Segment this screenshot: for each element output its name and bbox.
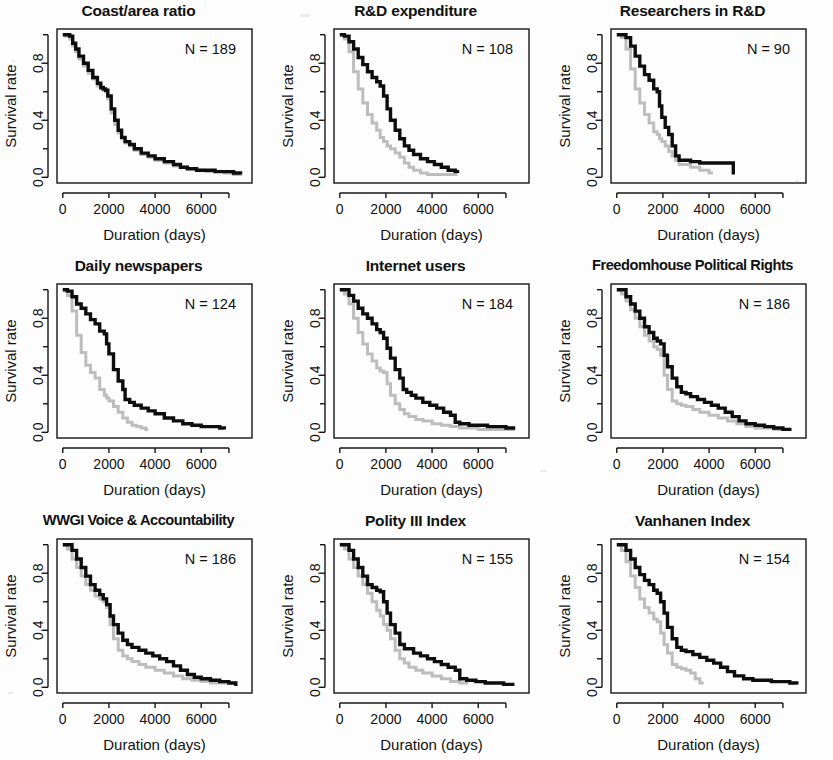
x-tick-label: 0 — [613, 201, 621, 217]
y-axis-label: Survival rate — [556, 574, 573, 657]
y-axis-label: Survival rate — [2, 574, 19, 657]
x-tick-label: 4000 — [693, 201, 724, 217]
x-tick-label: 2000 — [370, 711, 401, 727]
x-tick-label: 2000 — [93, 456, 124, 472]
x-tick-label: 6000 — [463, 456, 494, 472]
survival-panel: Internet users0.00.40.80200040006000Dura… — [277, 255, 554, 508]
x-tick-label: 0 — [336, 711, 344, 727]
y-tick-label: 0.0 — [30, 167, 46, 187]
survival-panel: Daily newspapers0.00.40.80200040006000Du… — [0, 255, 277, 508]
y-axis-label: Survival rate — [279, 64, 296, 147]
plot-area: 0.00.40.80200040006000Duration (days)Sur… — [0, 0, 277, 253]
y-axis-label: Survival rate — [2, 64, 19, 147]
y-tick-label: 0.4 — [30, 110, 46, 130]
survival-panel: Polity III Index0.00.40.80200040006000Du… — [277, 510, 554, 760]
y-tick-label: 0.0 — [307, 677, 323, 697]
x-tick-label: 0 — [59, 711, 67, 727]
plot-area: 0.00.40.80200040006000Duration (days)Sur… — [0, 255, 277, 508]
sample-size-label: N = 124 — [185, 296, 236, 312]
y-tick-label: 0.0 — [307, 167, 323, 187]
x-tick-label: 4000 — [416, 711, 447, 727]
plot-area: 0.00.40.80200040006000Duration (days)Sur… — [277, 510, 554, 760]
x-tick-label: 6000 — [186, 456, 217, 472]
x-tick-label: 0 — [613, 711, 621, 727]
plot-area: 0.00.40.80200040006000Duration (days)Sur… — [554, 510, 831, 760]
y-tick-label: 0.8 — [307, 563, 323, 583]
x-axis-label: Duration (days) — [380, 481, 483, 498]
x-tick-label: 4000 — [693, 456, 724, 472]
survival-panel: R&D expenditure0.00.40.80200040006000Dur… — [277, 0, 554, 253]
y-tick-label: 0.4 — [584, 620, 600, 640]
x-axis-label: Duration (days) — [103, 226, 206, 243]
sample-size-label: N = 186 — [185, 551, 236, 567]
y-tick-label: 0.8 — [30, 53, 46, 73]
y-tick-label: 0.4 — [584, 365, 600, 385]
sample-size-label: N = 189 — [185, 41, 236, 57]
x-tick-label: 2000 — [647, 201, 678, 217]
x-tick-label: 6000 — [186, 711, 217, 727]
sample-size-label: N = 184 — [462, 296, 513, 312]
y-tick-label: 0.4 — [584, 110, 600, 130]
sample-size-label: N = 186 — [739, 296, 790, 312]
survival-panel: Vanhanen Index0.00.40.80200040006000Dura… — [554, 510, 831, 760]
x-tick-label: 2000 — [93, 201, 124, 217]
x-tick-label: 6000 — [740, 456, 771, 472]
y-tick-label: 0.4 — [307, 110, 323, 130]
plot-area: 0.00.40.80200040006000Duration (days)Sur… — [277, 255, 554, 508]
x-axis-label: Duration (days) — [380, 226, 483, 243]
plot-area: 0.00.40.80200040006000Duration (days)Sur… — [554, 0, 831, 253]
x-tick-label: 6000 — [186, 201, 217, 217]
x-axis-label: Duration (days) — [657, 736, 760, 753]
x-tick-label: 2000 — [647, 456, 678, 472]
x-tick-label: 2000 — [93, 711, 124, 727]
y-tick-label: 0.8 — [30, 308, 46, 328]
x-tick-label: 2000 — [370, 201, 401, 217]
y-tick-label: 0.4 — [30, 620, 46, 640]
y-axis-label: Survival rate — [2, 319, 19, 402]
x-tick-label: 4000 — [693, 711, 724, 727]
x-tick-label: 6000 — [740, 711, 771, 727]
survival-curve-gray — [63, 290, 148, 430]
y-tick-label: 0.0 — [584, 422, 600, 442]
x-tick-label: 2000 — [647, 711, 678, 727]
sample-size-label: N = 155 — [462, 551, 513, 567]
x-tick-label: 6000 — [463, 201, 494, 217]
plot-area: 0.00.40.80200040006000Duration (days)Sur… — [0, 510, 277, 760]
y-tick-label: 0.4 — [307, 365, 323, 385]
x-axis-label: Duration (days) — [657, 226, 760, 243]
y-tick-label: 0.4 — [30, 365, 46, 385]
y-tick-label: 0.8 — [584, 308, 600, 328]
x-tick-label: 4000 — [139, 201, 170, 217]
survival-curve-black — [617, 35, 734, 175]
survival-curves-figure: Coast/area ratio0.00.40.80200040006000Du… — [0, 0, 833, 760]
survival-curve-gray — [617, 545, 702, 685]
x-tick-label: 6000 — [463, 711, 494, 727]
x-tick-label: 4000 — [416, 456, 447, 472]
y-tick-label: 0.8 — [30, 563, 46, 583]
x-tick-label: 0 — [336, 456, 344, 472]
survival-panel: Freedomhouse Political Rights0.00.40.802… — [554, 255, 831, 508]
x-tick-label: 4000 — [416, 201, 447, 217]
survival-panel: WWGI Voice & Accountability0.00.40.80200… — [0, 510, 277, 760]
x-tick-label: 0 — [336, 201, 344, 217]
x-axis-label: Duration (days) — [103, 736, 206, 753]
y-tick-label: 0.8 — [307, 53, 323, 73]
y-axis-label: Survival rate — [279, 574, 296, 657]
y-axis-label: Survival rate — [556, 64, 573, 147]
survival-panel: Researchers in R&D0.00.40.80200040006000… — [554, 0, 831, 253]
y-tick-label: 0.8 — [584, 53, 600, 73]
sample-size-label: N = 108 — [462, 41, 513, 57]
y-axis-label: Survival rate — [279, 319, 296, 402]
x-tick-label: 4000 — [139, 456, 170, 472]
y-tick-label: 0.0 — [584, 167, 600, 187]
survival-panel: Coast/area ratio0.00.40.80200040006000Du… — [0, 0, 277, 253]
survival-curve-gray — [617, 35, 712, 175]
y-tick-label: 0.8 — [584, 563, 600, 583]
y-tick-label: 0.0 — [30, 677, 46, 697]
y-tick-label: 0.8 — [307, 308, 323, 328]
sample-size-label: N = 154 — [739, 551, 790, 567]
x-axis-label: Duration (days) — [103, 481, 206, 498]
x-tick-label: 0 — [59, 201, 67, 217]
y-axis-label: Survival rate — [556, 319, 573, 402]
sample-size-label: N = 90 — [747, 41, 790, 57]
